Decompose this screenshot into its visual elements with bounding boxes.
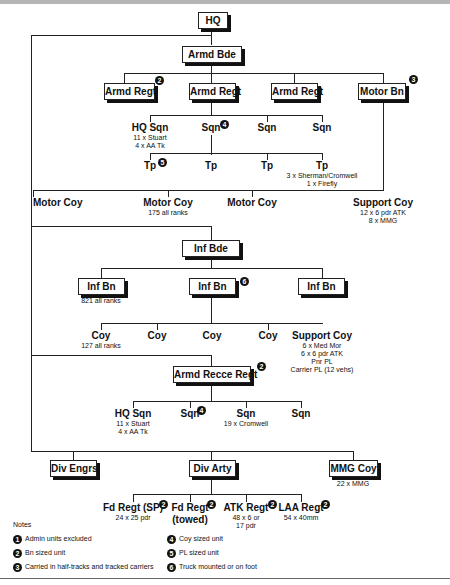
note-badge-2: 2 — [207, 500, 216, 509]
top-border — [0, 0, 450, 4]
tp-label: Tp — [144, 160, 156, 172]
connector — [101, 268, 323, 269]
note-item: 1Admin units excluded — [13, 534, 92, 544]
sqn-label: Sqn 19 x Cromwell — [224, 408, 268, 428]
note-badge-5: 5 — [158, 158, 167, 167]
connector — [211, 27, 212, 45]
note-badge-2: 2 — [268, 500, 277, 509]
note-badge-icon: 2 — [13, 549, 22, 558]
motor-bn-box[interactable]: Motor Bn — [358, 83, 406, 100]
tp-label: Tp — [261, 160, 273, 172]
hq-sqn-label: HQ Sqn 11 x Stuart 4 x AA Tk — [115, 408, 152, 436]
div-arty-box[interactable]: Div Arty — [189, 460, 236, 477]
arty-regt-label: Fd Regt (SP) 24 x 25 pdr — [103, 502, 163, 522]
connector — [33, 190, 34, 197]
inf-bn-detail: 821 all ranks — [81, 297, 121, 305]
div-engrs-box[interactable]: Div Engrs — [50, 460, 97, 477]
connector — [190, 494, 191, 502]
connector — [211, 355, 212, 366]
connector — [211, 100, 212, 116]
armd-regt-box-1[interactable]: Armd Regt — [104, 83, 155, 100]
connector — [353, 451, 354, 460]
connector — [211, 475, 212, 495]
note-badge-4: 4 — [220, 120, 229, 129]
note-badge-6: 6 — [240, 277, 249, 286]
tp-label: Tp 3 x Sherman/Cromwell 1 x Firefly — [287, 160, 358, 188]
note-badge-2: 2 — [155, 76, 164, 85]
armd-regt-box-2[interactable]: Armd Regt — [189, 83, 236, 100]
connector — [150, 115, 322, 116]
note-badge-2: 2 — [257, 362, 266, 371]
connector — [190, 401, 191, 408]
connector — [211, 135, 212, 155]
spine-to-inf — [31, 226, 212, 227]
hq-sqn-label: HQ Sqn 11 x Stuart 4 x AA Tk — [132, 122, 169, 150]
support-coy-label: Support Coy 12 x 6 pdr ATK 8 x MMG — [353, 197, 413, 225]
connector — [133, 494, 134, 502]
note-item: 4Coy sized unit — [167, 534, 223, 544]
mmg-detail: 22 x MMG — [337, 480, 369, 488]
note-badge-2: 2 — [159, 500, 168, 509]
motor-coy-label: Motor Coy — [227, 197, 276, 209]
inf-bde-box[interactable]: Inf Bde — [182, 240, 240, 257]
connector — [246, 401, 247, 408]
arty-regt-label: LAA Regt 54 x 40mm — [278, 502, 323, 522]
connector — [124, 73, 383, 74]
note-badge-icon: 1 — [13, 535, 22, 544]
connector — [124, 73, 125, 83]
connector — [267, 153, 268, 160]
inf-bn-box-2[interactable]: Inf Bn — [189, 278, 236, 295]
mmg-coy-box[interactable]: MMG Coy — [329, 460, 378, 477]
note-badge-2: 2 — [321, 500, 330, 509]
armd-recce-regt-box[interactable]: Armd Recce Regt — [173, 366, 251, 383]
connector — [322, 153, 323, 160]
spine-top — [31, 35, 212, 36]
connector — [133, 401, 134, 408]
tp-label: Tp — [205, 160, 217, 172]
inf-bn-box-1[interactable]: Inf Bn — [78, 278, 125, 295]
connector — [252, 190, 253, 197]
connector — [211, 293, 212, 324]
note-badge-icon: 4 — [167, 535, 176, 544]
connector — [211, 451, 212, 460]
connector — [383, 100, 384, 191]
connector — [157, 323, 158, 330]
spine-left-2 — [31, 153, 32, 451]
note-item: 6Truck mounted or on foot — [167, 562, 257, 572]
armd-bde-box[interactable]: Armd Bde — [182, 46, 242, 63]
connector — [267, 115, 268, 122]
connector — [101, 268, 102, 278]
connector — [101, 323, 102, 330]
connector — [268, 323, 269, 330]
connector — [150, 153, 151, 160]
note-badge-3: 3 — [409, 75, 418, 84]
connector — [168, 190, 169, 197]
connector — [211, 73, 212, 83]
connector — [33, 190, 384, 191]
note-item: 3Carried in half-tracks and tracked carr… — [13, 562, 153, 572]
connector — [301, 401, 302, 408]
sqn-label: Sqn — [258, 122, 277, 134]
coy-label: Coy 127 all ranks — [81, 330, 121, 350]
note-item: 5PL sized unit — [167, 548, 219, 558]
connector — [322, 268, 323, 278]
note-badge-icon: 5 — [167, 549, 176, 558]
note-item: 2Bn sized unit — [13, 548, 65, 558]
hq-box[interactable]: HQ — [198, 12, 228, 29]
connector — [301, 494, 302, 502]
connector — [133, 494, 302, 495]
coy-label: Coy — [148, 330, 167, 342]
spine-bottom — [31, 451, 354, 452]
connector — [211, 381, 212, 402]
motor-coy-label: Motor Coy 175 all ranks — [143, 197, 192, 217]
armd-regt-box-3[interactable]: Armd Regt — [271, 83, 318, 100]
connector — [73, 451, 74, 460]
connector — [383, 73, 384, 83]
note-badge-4: 4 — [197, 406, 206, 415]
bottom-rule — [0, 578, 450, 579]
motor-coy-label: Motor Coy — [33, 197, 82, 209]
inf-bn-box-3[interactable]: Inf Bn — [298, 278, 345, 295]
connector — [101, 323, 323, 324]
connector — [211, 226, 212, 240]
connector — [150, 115, 151, 122]
